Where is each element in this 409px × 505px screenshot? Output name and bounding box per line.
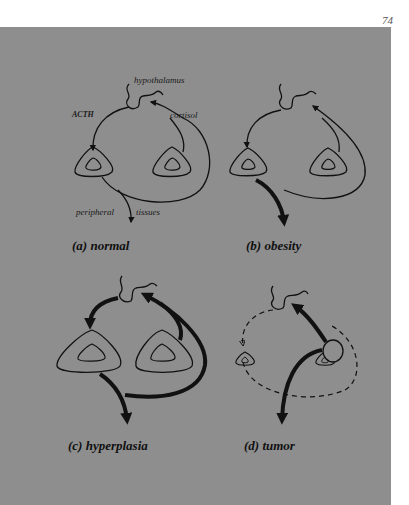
hypothalamus-icon: [127, 84, 163, 109]
adrenal-gland-left-enlarged: [57, 330, 121, 372]
hypothalamus-icon: [271, 286, 308, 309]
adrenal-gland-left-atrophied: [236, 352, 254, 365]
panel-b-obesity: (b) obesity: [230, 84, 365, 253]
caption-a: (a) normal: [72, 238, 130, 253]
label-tissues: tissues: [136, 207, 161, 217]
panel-a-normal: hypothalamus ACTH cortisol peripheral ti…: [71, 75, 210, 253]
label-peripheral: peripheral: [75, 207, 114, 217]
hpa-axis-figure: hypothalamus ACTH cortisol peripheral ti…: [0, 0, 409, 505]
caption-c: (c) hyperplasia: [68, 438, 148, 453]
adrenal-gland-right: [153, 147, 191, 177]
tumor-icon: [323, 340, 343, 362]
hypothalamus-icon: [279, 84, 316, 109]
adrenal-gland-left: [75, 147, 113, 177]
adrenal-gland-right-enlarged: [136, 330, 193, 372]
label-acth: ACTH: [71, 110, 95, 119]
caption-d: (d) tumor: [244, 438, 296, 453]
caption-b: (b) obesity: [246, 238, 301, 253]
panel-d-tumor: (d) tumor: [236, 286, 357, 453]
panel-c-hyperplasia: (c) hyperplasia: [57, 276, 205, 453]
label-hypothalamus: hypothalamus: [134, 75, 185, 85]
